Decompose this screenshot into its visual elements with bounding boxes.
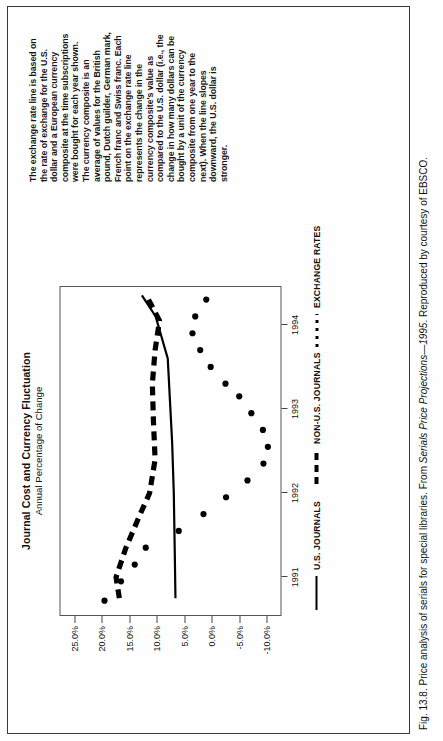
legend-swatch-dotted-icon bbox=[311, 314, 321, 348]
caption-source-title: Serials Price Projections—1995 bbox=[418, 323, 429, 464]
chart-subtitle: Annual Percentage of Change bbox=[32, 286, 44, 616]
caption-text-2: . Reproduced by courtesy of EBSCO. bbox=[418, 157, 429, 323]
y-tick bbox=[156, 616, 157, 623]
y-tick bbox=[101, 616, 102, 623]
x-tick-label: 1994 bbox=[289, 315, 299, 335]
y-tick-label: 0.0% bbox=[206, 626, 216, 647]
y-tick bbox=[74, 616, 75, 623]
y-tick bbox=[239, 616, 240, 623]
legend-item-dotted[interactable]: EXCHANGE RATES bbox=[311, 226, 321, 348]
page-title: Journal Cost and Currency Fluctuation bbox=[19, 286, 32, 616]
explanatory-note: The exchange rate line is based on the r… bbox=[27, 30, 228, 182]
legend-swatch-dashed-icon bbox=[311, 450, 321, 484]
y-tick bbox=[211, 616, 212, 623]
legend-swatch-solid-icon bbox=[311, 576, 321, 610]
figure-page: Journal Cost and Currency Fluctuation An… bbox=[0, 0, 443, 741]
x-tick-label: 1993 bbox=[289, 399, 299, 419]
legend-label: U.S. JOURNALS bbox=[311, 501, 321, 570]
legend-label: EXCHANGE RATES bbox=[311, 226, 321, 308]
y-tick bbox=[266, 616, 267, 623]
figure-caption: Fig. 13.8. Price analysis of serials for… bbox=[418, 10, 430, 730]
caption-text-1: Price analysis of serials for special li… bbox=[418, 466, 429, 686]
x-tick bbox=[281, 576, 287, 577]
legend-label: NON-U.S. JOURNALS bbox=[311, 352, 321, 444]
y-tick-label: 5.0% bbox=[179, 626, 189, 647]
caption-number: Fig. 13.8. bbox=[418, 688, 429, 730]
y-tick-label: 25.0% bbox=[69, 626, 79, 652]
figure-landscape-canvas: Journal Cost and Currency Fluctuation An… bbox=[7, 6, 410, 734]
y-tick bbox=[184, 616, 185, 623]
x-tick-label: 1992 bbox=[289, 483, 299, 503]
y-tick-label: -5.0% bbox=[234, 626, 244, 650]
y-tick-label: 15.0% bbox=[124, 626, 134, 652]
y-tick bbox=[129, 616, 130, 623]
x-axis: 1991199219931994 bbox=[59, 286, 281, 616]
chart-title-block: Journal Cost and Currency Fluctuation An… bbox=[19, 286, 44, 616]
y-tick-label: 10.0% bbox=[151, 626, 161, 652]
explanatory-note-text: The exchange rate line is based on the r… bbox=[27, 30, 228, 182]
x-tick bbox=[281, 324, 287, 325]
chart-legend: U.S. JOURNALSNON-U.S. JOURNALSEXCHANGE R… bbox=[307, 286, 347, 616]
x-tick bbox=[281, 492, 287, 493]
x-tick-label: 1991 bbox=[289, 567, 299, 587]
rotated-figure-wrapper: Journal Cost and Currency Fluctuation An… bbox=[7, 6, 410, 734]
y-tick-label: 20.0% bbox=[96, 626, 106, 652]
legend-item-solid[interactable]: U.S. JOURNALS bbox=[311, 501, 321, 610]
legend-item-dashed[interactable]: NON-U.S. JOURNALS bbox=[311, 352, 321, 484]
x-tick bbox=[281, 408, 287, 409]
y-tick-label: -10.0% bbox=[261, 626, 271, 655]
